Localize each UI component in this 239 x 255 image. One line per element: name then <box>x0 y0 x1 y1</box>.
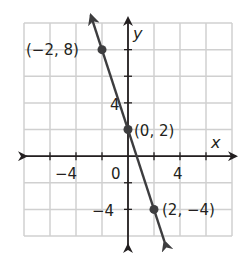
data-point <box>98 45 107 54</box>
data-point <box>150 205 159 214</box>
data-point <box>124 125 133 134</box>
y-tick-label-neg4: −4 <box>92 202 114 220</box>
point-label-0-2: (0, 2) <box>134 122 174 140</box>
point-label-2-neg4: (2, −4) <box>162 201 215 219</box>
y-axis-label: y <box>132 24 143 43</box>
origin-label: 0 <box>111 165 121 183</box>
point-label-neg2-8: (−2, 8) <box>26 41 79 59</box>
coordinate-plane: x y −4 0 4 4 −4 (−2, 8) (0, 2) (2, −4) <box>0 0 239 255</box>
x-tick-label-neg4: −4 <box>55 165 77 183</box>
x-axis-label: x <box>210 133 221 152</box>
x-tick-label-pos4: 4 <box>173 165 183 183</box>
